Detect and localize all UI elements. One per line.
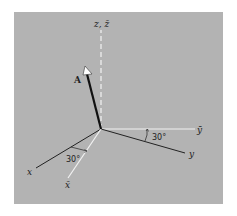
y-axis: [101, 129, 185, 153]
vector-a: [87, 74, 101, 129]
x-axis-label: x: [27, 167, 32, 177]
y-bar-axis-label: ȳ: [196, 125, 203, 135]
z-axis-label: z, z̄: [93, 19, 110, 29]
vector-a-label: A: [73, 75, 82, 85]
angle-label-x: 30°: [66, 155, 80, 164]
x-bar-axis: [68, 129, 101, 178]
x-bar-axis-label: x̄: [65, 180, 70, 190]
angle-label-y: 30°: [152, 133, 166, 142]
coordinate-diagram: z, z̄ A ȳ y x x̄ 30° 30°: [0, 0, 237, 216]
vector-a-arrowhead: [83, 66, 92, 75]
y-axis-label: y: [188, 149, 195, 159]
angle-arc-x: [71, 147, 87, 151]
